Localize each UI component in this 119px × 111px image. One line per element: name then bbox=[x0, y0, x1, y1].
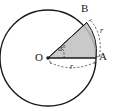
shaded-sector bbox=[48, 23, 96, 59]
label-point-b: B bbox=[81, 3, 88, 14]
label-center-o: O bbox=[35, 52, 43, 63]
label-radius-r: r bbox=[70, 63, 73, 71]
geometry-figure: O A B r r α° bbox=[0, 0, 119, 111]
center-point-dot bbox=[46, 56, 49, 59]
label-point-a: A bbox=[99, 51, 107, 62]
label-central-angle: α° bbox=[58, 45, 65, 53]
label-arc-r: r bbox=[100, 27, 103, 35]
measure-tick-o bbox=[50, 61, 52, 65]
